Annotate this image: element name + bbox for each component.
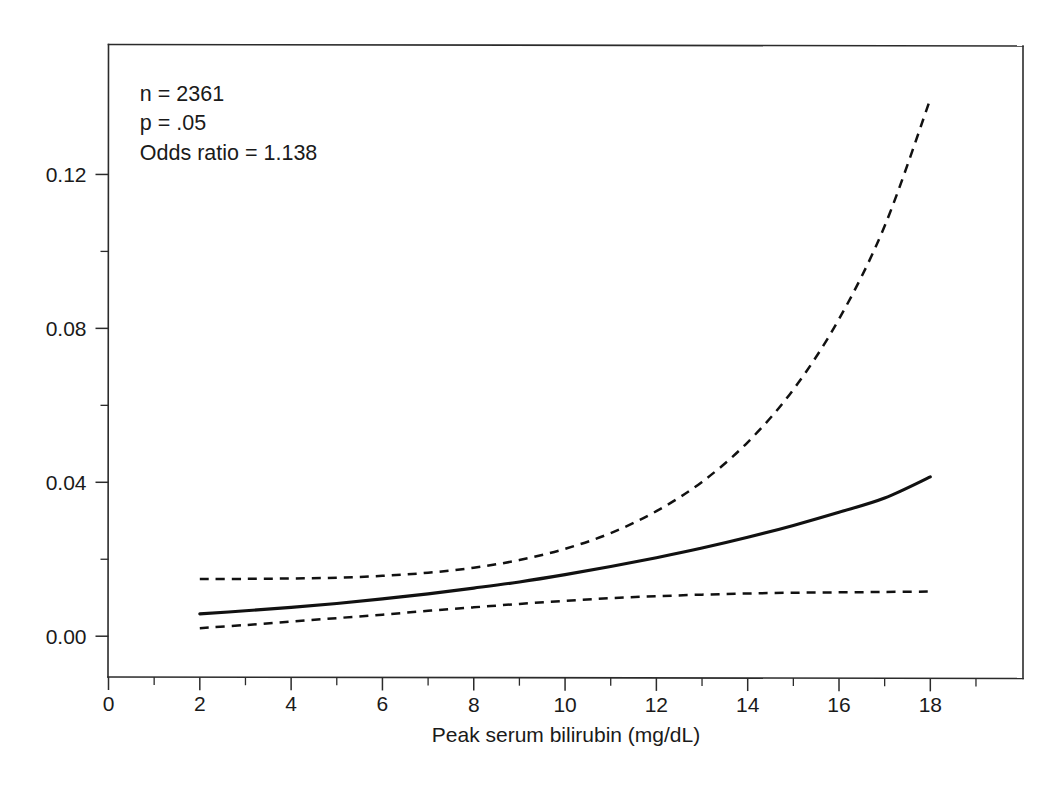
- x-tick-label: 16: [827, 693, 850, 716]
- x-tick-label: 2: [194, 692, 206, 715]
- figure-container: 0.000.040.080.12 024681012141618 n = 236…: [0, 0, 1060, 789]
- y-tick-label: 0.12: [46, 163, 87, 186]
- x-tick-label: 12: [645, 693, 668, 716]
- x-tick-label: 14: [736, 693, 760, 716]
- x-tick-label: 6: [377, 692, 389, 715]
- x-tick-label: 18: [919, 693, 942, 716]
- x-tick-label: 10: [553, 693, 576, 716]
- y-tick-label: 0.04: [46, 471, 87, 494]
- chart-annotation: p = .05: [140, 111, 206, 135]
- x-tick-label: 0: [103, 692, 115, 715]
- y-tick-label: 0.08: [46, 317, 87, 340]
- x-tick-label: 4: [285, 692, 297, 715]
- y-tick-label: 0.00: [46, 625, 87, 648]
- chart-annotation: n = 2361: [140, 82, 224, 106]
- chart-annotation: Odds ratio = 1.138: [140, 141, 318, 165]
- axis-spine-left: [108, 45, 109, 678]
- logistic-regression-chart: 0.000.040.080.12 024681012141618 n = 236…: [0, 0, 1060, 789]
- x-axis-title: Peak serum bilirubin (mg/dL): [432, 723, 700, 746]
- x-tick-label: 8: [468, 693, 480, 716]
